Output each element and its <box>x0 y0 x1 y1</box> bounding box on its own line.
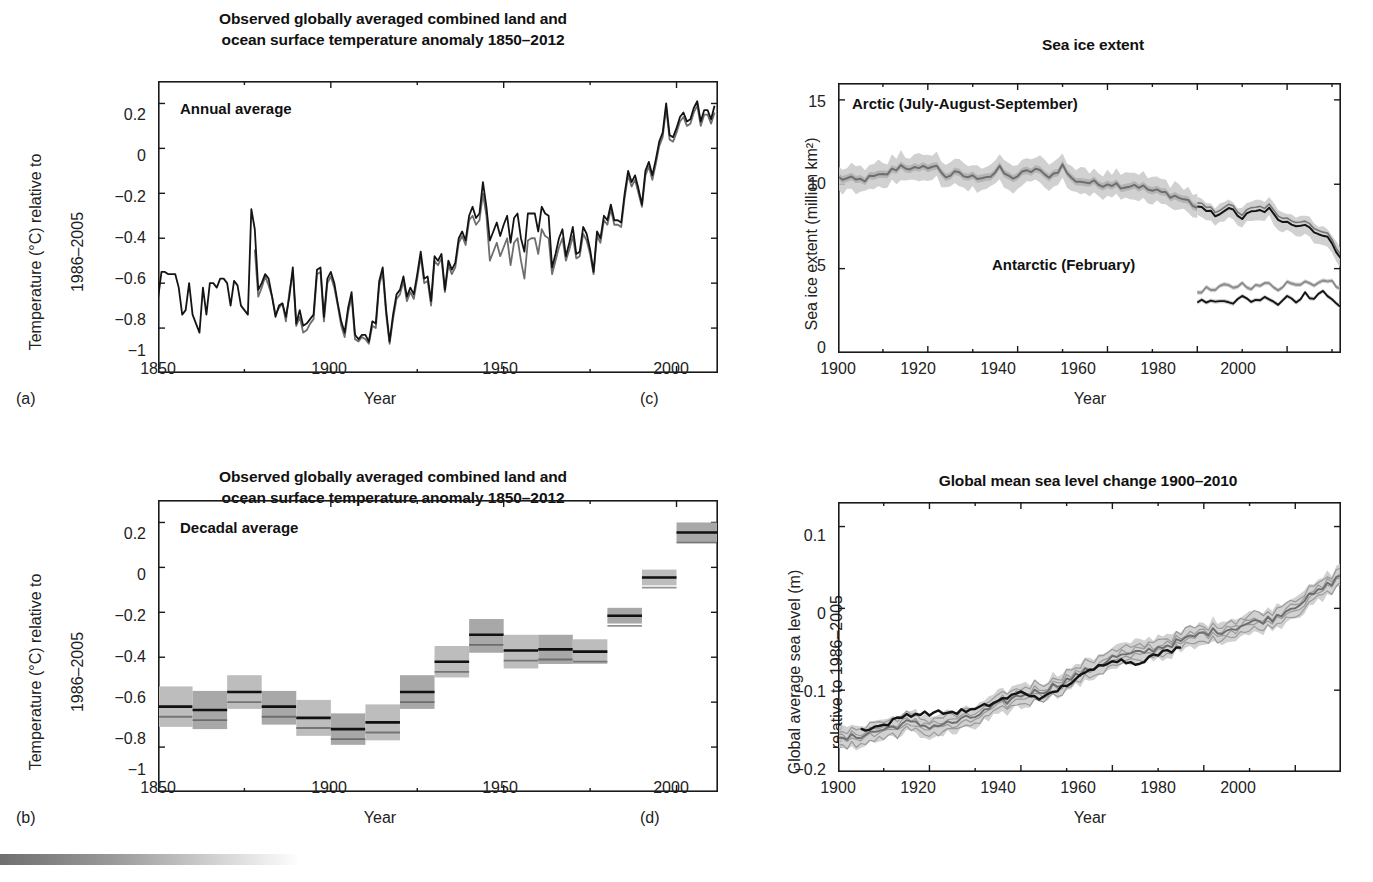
panel-d-xtick-5: 2000 <box>1208 779 1268 797</box>
panel-d-xtick-1: 1920 <box>888 779 948 797</box>
panel-d-ytick-1: 0 <box>780 605 826 623</box>
panel-a-y-axis-label-line2: 1986–2005 <box>69 212 86 292</box>
panel-b-y-axis-label-line1: Temperature (°C) relative to <box>27 574 44 771</box>
panel-c-ytick-2: 5 <box>790 257 826 275</box>
panel-a-ytick-5: −0.8 <box>88 311 146 329</box>
panel-a-y-axis-label: Temperature (°C) relative to 1986–2005 <box>4 112 88 392</box>
panel-b-ytick-6: −1 <box>88 761 146 779</box>
panel-b-y-axis-label: Temperature (°C) relative to 1986–2005 <box>4 532 88 812</box>
panel-b-y-axis-label-line2: 1986–2005 <box>69 632 86 712</box>
panel-b-ytick-5: −0.8 <box>88 730 146 748</box>
panel-a-xtick-2: 1950 <box>470 360 530 378</box>
panel-d-plot <box>838 502 1341 772</box>
panel-d-y-axis-label-line1: Global average sea level (m) <box>786 570 803 775</box>
panel-a-ytick-4: −0.6 <box>88 270 146 288</box>
panel-a-plot <box>158 81 718 373</box>
panel-c-plot <box>838 83 1341 353</box>
panel-c-xtick-1: 1920 <box>888 360 948 378</box>
panel-c-xtick-0: 1900 <box>808 360 868 378</box>
panel-b-xtick-0: 1850 <box>128 779 188 797</box>
panel-d-letter: (d) <box>640 809 660 827</box>
panel-a-ytick-0: 0.2 <box>96 106 146 124</box>
panel-c-title: Sea ice extent <box>848 34 1338 55</box>
panel-a-ytick-6: −1 <box>88 342 146 360</box>
panel-d-title: Global mean sea level change 1900–2010 <box>838 470 1338 491</box>
panel-a-xtick-1: 1900 <box>299 360 359 378</box>
panel-b-xtick-1: 1900 <box>299 779 359 797</box>
panel-c-xtick-2: 1940 <box>968 360 1028 378</box>
panel-b-letter: (b) <box>16 809 36 827</box>
panel-a-xtick-3: 2000 <box>641 360 701 378</box>
panel-a-y-axis-label-line1: Temperature (°C) relative to <box>27 154 44 351</box>
page-footer-gradient-bar <box>0 854 300 865</box>
panel-a-title-line2: ocean surface temperature anomaly 1850–2… <box>222 31 565 48</box>
panel-a-letter: (a) <box>16 390 36 408</box>
panel-c-xtick-5: 2000 <box>1208 360 1268 378</box>
panel-d-ytick-0: 0.1 <box>780 527 826 545</box>
panel-a-ytick-2: −0.2 <box>88 188 146 206</box>
panel-d-xtick-4: 1980 <box>1128 779 1188 797</box>
panel-b-ytick-1: 0 <box>96 566 146 584</box>
panel-b-ytick-2: −0.2 <box>88 607 146 625</box>
panel-c-y-axis-label-text: Sea ice extent (million km²) <box>803 138 820 331</box>
panel-c-xtick-4: 1980 <box>1128 360 1188 378</box>
panel-a-x-axis-label: Year <box>320 390 440 408</box>
panel-b-xtick-3: 2000 <box>641 779 701 797</box>
panel-c-ytick-1: 10 <box>790 175 826 193</box>
panel-a-title: Observed globally averaged combined land… <box>158 8 628 50</box>
panel-d-xtick-3: 1960 <box>1048 779 1108 797</box>
panel-c-xtick-3: 1960 <box>1048 360 1108 378</box>
panel-d-ytick-3: −0.2 <box>772 761 826 779</box>
panel-c-ytick-3: 0 <box>790 339 826 357</box>
panel-b-x-axis-label: Year <box>320 809 440 827</box>
panel-a-title-line1: Observed globally averaged combined land… <box>219 10 567 27</box>
panel-b-title-line1: Observed globally averaged combined land… <box>219 468 567 485</box>
panel-b-xtick-2: 1950 <box>470 779 530 797</box>
panel-b-ytick-3: −0.4 <box>88 648 146 666</box>
panel-d-ytick-2: −0.1 <box>772 683 826 701</box>
panel-c-x-axis-label: Year <box>1030 390 1150 408</box>
panel-b-ytick-0: 0.2 <box>96 525 146 543</box>
panel-a-xtick-0: 1850 <box>128 360 188 378</box>
panel-c-ytick-0: 15 <box>790 93 826 111</box>
panel-b-plot <box>158 500 718 792</box>
panel-a-ytick-3: −0.4 <box>88 229 146 247</box>
panel-d-xtick-2: 1940 <box>968 779 1028 797</box>
panel-d-x-axis-label: Year <box>1030 809 1150 827</box>
panel-c-letter: (c) <box>640 390 659 408</box>
panel-d-xtick-0: 1900 <box>808 779 868 797</box>
panel-b-ytick-4: −0.6 <box>88 689 146 707</box>
panel-a-ytick-1: 0 <box>96 147 146 165</box>
